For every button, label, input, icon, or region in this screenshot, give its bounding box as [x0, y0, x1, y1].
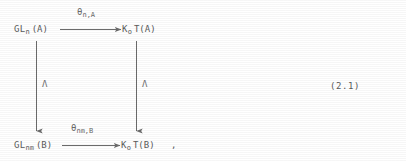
arrow-bottom-label-subscript: nm,B	[76, 127, 93, 135]
arrow-bottom-label: θnm,B	[71, 124, 93, 135]
node-bottom-right-argument: T(B)	[133, 140, 155, 150]
node-top-right-argument: T(A)	[134, 24, 156, 34]
diagram-page: K_oT(A) --> K_oT(B) --> GLn(A) KoT(A) GL…	[0, 0, 406, 161]
node-bottom-left-subscript: nm	[25, 144, 33, 152]
equation-number: (2.1)	[330, 82, 360, 91]
arrow-top-label-subscript: n,A	[82, 11, 95, 19]
node-top-left: GLn(A)	[14, 25, 48, 36]
node-top-left-base: GL	[14, 24, 25, 34]
node-top-right: KoT(A)	[122, 25, 156, 36]
arrow-left-label: Λ	[42, 80, 47, 89]
node-top-right-subscript: o	[128, 28, 132, 36]
trailing-comma: ,	[171, 141, 176, 150]
arrow-right-label: Λ	[142, 80, 147, 89]
node-bottom-right-subscript: o	[127, 144, 131, 152]
node-top-left-argument: (A)	[32, 24, 48, 34]
node-bottom-left-argument: (B)	[36, 140, 52, 150]
node-bottom-right: KoT(B)	[121, 141, 155, 152]
node-bottom-left-base: GL	[14, 140, 25, 150]
arrow-top-label: θn,A	[77, 8, 95, 19]
node-bottom-left: GLnm(B)	[14, 141, 52, 152]
node-top-left-subscript: n	[25, 28, 29, 36]
